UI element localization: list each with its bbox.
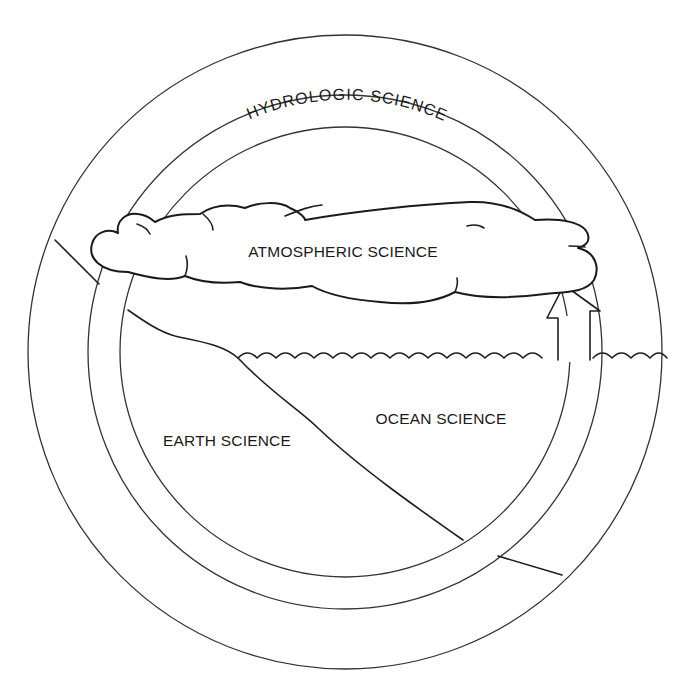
cycle-arrow-icon [547,285,600,362]
crust-divider [498,556,562,575]
ocean-science-label: OCEAN SCIENCE [376,410,507,427]
ocean-waves-icon [238,353,667,358]
middle-circle [88,95,602,609]
hydrologic-cycle-diagram: HYDROLOGIC SCIENCE ATMOSPHERIC SCIENCE O… [0,0,676,696]
hydrologic-science-label: HYDROLOGIC SCIENCE [244,86,450,124]
inner-circle [120,127,570,577]
atmospheric-science-label: ATMOSPHERIC SCIENCE [248,243,438,260]
hydrologic-band [88,95,602,609]
earth-science-label: EARTH SCIENCE [163,432,291,449]
